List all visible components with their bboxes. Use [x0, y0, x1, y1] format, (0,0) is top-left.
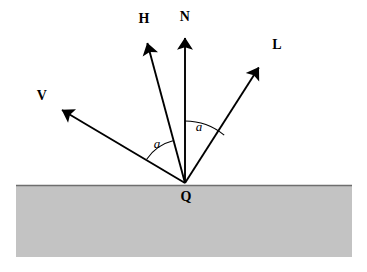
vector-label-v: V — [37, 89, 47, 103]
angle-label-n-l: a — [196, 120, 203, 133]
vector-h-shaft — [147, 43, 185, 183]
figure-root: V H N L a a Q — [0, 0, 367, 272]
diagram-canvas — [0, 0, 367, 272]
vector-v-shaft — [62, 110, 185, 183]
angle-arc-n-l — [185, 121, 224, 135]
vector-label-n: N — [180, 10, 190, 24]
origin-point-label-q: Q — [181, 190, 192, 204]
vector-label-h: H — [138, 12, 149, 26]
angle-label-v-h: a — [154, 137, 161, 150]
vector-label-l: L — [272, 38, 282, 52]
